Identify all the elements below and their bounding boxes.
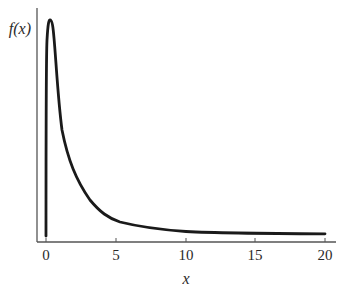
x-tick-label-5: 5 — [112, 247, 120, 263]
x-tick-label-15: 15 — [248, 247, 263, 263]
x-axis-label: x — [181, 270, 189, 287]
density-chart: 0 5 10 15 20 x f(x) — [0, 0, 346, 292]
density-curve — [46, 20, 325, 236]
x-tick-label-0: 0 — [42, 247, 50, 263]
x-tick-label-10: 10 — [179, 247, 194, 263]
x-tick-label-20: 20 — [318, 247, 333, 263]
y-axis-label: f(x) — [9, 20, 31, 38]
